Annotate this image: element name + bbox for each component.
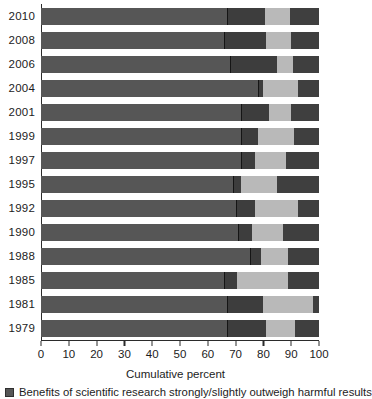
bar-segment	[291, 104, 319, 121]
bar-segment	[224, 32, 266, 49]
bar-segment	[41, 104, 241, 121]
bar-segment	[227, 320, 266, 337]
bar-row: 1992	[41, 200, 319, 217]
bar-segment	[294, 128, 319, 145]
bar-segment	[298, 80, 319, 97]
bar-segment	[241, 152, 255, 169]
bar-segment	[250, 248, 261, 265]
bar-segment	[277, 56, 292, 73]
bar-segment	[261, 248, 289, 265]
bar-row: 1985	[41, 272, 319, 289]
bar-row: 1990	[41, 224, 319, 241]
bar-segment	[265, 8, 290, 25]
bar-segment	[233, 176, 241, 193]
bar-row: 1997	[41, 152, 319, 169]
x-tick	[263, 341, 264, 346]
bar-segment	[291, 32, 319, 49]
y-tick-label: 1988	[9, 250, 35, 262]
bar-segment	[277, 176, 319, 193]
bar-row: 2004	[41, 80, 319, 97]
x-axis: 0102030405060708090100	[41, 340, 319, 349]
y-tick-label: 1981	[9, 298, 35, 310]
x-tick	[68, 341, 69, 346]
bar-segment	[41, 248, 250, 265]
bar-segment	[41, 272, 224, 289]
x-tick	[152, 341, 153, 346]
bar-segment	[41, 32, 224, 49]
x-tick-label: 90	[285, 348, 298, 360]
bar-segment	[269, 104, 291, 121]
bar-row: 1981	[41, 296, 319, 313]
stacked-bar	[41, 104, 319, 121]
bar-segment	[237, 272, 288, 289]
bar-row: 1979	[41, 320, 319, 337]
bar-row: 1988	[41, 248, 319, 265]
chart-legend: Benefits of scientific research strongly…	[5, 386, 372, 398]
bar-segment	[263, 296, 313, 313]
stacked-bar	[41, 152, 319, 169]
x-tick-label: 10	[62, 348, 75, 360]
bar-segment	[224, 272, 237, 289]
bar-segment	[41, 200, 236, 217]
bar-segment	[255, 152, 286, 169]
x-tick-label: 30	[118, 348, 131, 360]
stacked-bar	[41, 296, 319, 313]
bar-segment	[41, 176, 233, 193]
bar-segment	[263, 80, 298, 97]
bar-segment	[41, 128, 241, 145]
plot-area: 2010200820062004200119991997199519921990…	[41, 4, 319, 340]
stacked-bar	[41, 56, 319, 73]
y-tick-label: 1999	[9, 130, 35, 142]
bar-row: 2008	[41, 32, 319, 49]
x-tick	[207, 341, 208, 346]
y-tick-label: 1995	[9, 178, 35, 190]
legend-item-label: Benefits of scientific research strongly…	[19, 386, 372, 398]
bar-segment	[241, 176, 277, 193]
bar-segment	[241, 128, 258, 145]
bar-segment	[298, 200, 319, 217]
stacked-bar	[41, 128, 319, 145]
bar-segment	[283, 224, 319, 241]
stacked-bar	[41, 320, 319, 337]
x-tick-label: 20	[90, 348, 103, 360]
x-tick	[291, 341, 292, 346]
bar-segment	[288, 248, 319, 265]
bar-row: 1999	[41, 128, 319, 145]
bar-segment	[41, 56, 230, 73]
y-tick-label: 2006	[9, 58, 35, 70]
y-tick-label: 1985	[9, 274, 35, 286]
x-tick-label: 60	[201, 348, 214, 360]
x-tick	[180, 341, 181, 346]
bar-segment	[266, 320, 295, 337]
x-tick	[96, 341, 97, 346]
x-tick-label: 0	[38, 348, 44, 360]
bar-segment	[288, 272, 319, 289]
bar-segment	[41, 296, 227, 313]
y-tick-label: 1990	[9, 226, 35, 238]
x-tick	[235, 341, 236, 346]
bar-row: 2006	[41, 56, 319, 73]
x-tick	[319, 341, 320, 346]
bar-segment	[313, 296, 319, 313]
y-tick-label: 2001	[9, 106, 35, 118]
bar-segment	[255, 200, 298, 217]
y-tick-label: 1997	[9, 154, 35, 166]
x-tick	[41, 341, 42, 346]
bar-segment	[266, 32, 291, 49]
bar-row: 2010	[41, 8, 319, 25]
bar-row: 2001	[41, 104, 319, 121]
stacked-bar	[41, 248, 319, 265]
stacked-bar	[41, 32, 319, 49]
bar-rows: 2010200820062004200119991997199519921990…	[41, 4, 319, 340]
x-tick-label: 100	[309, 348, 328, 360]
bar-segment	[241, 104, 269, 121]
bar-segment	[252, 224, 283, 241]
stacked-bar	[41, 272, 319, 289]
y-tick-label: 1992	[9, 202, 35, 214]
y-tick-label: 2008	[9, 34, 35, 46]
x-tick-label: 40	[146, 348, 159, 360]
x-tick-label: 70	[229, 348, 242, 360]
bar-segment	[238, 224, 252, 241]
bar-segment	[293, 56, 319, 73]
y-tick-label: 2004	[9, 82, 35, 94]
